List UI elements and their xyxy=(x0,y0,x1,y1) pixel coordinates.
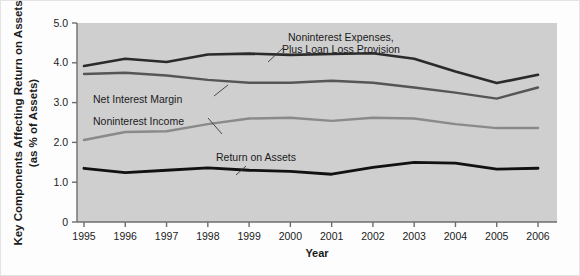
label-noninterest-expenses-line1: Noninterest Expenses, xyxy=(288,31,394,43)
x-tick-labels: 1995199619971998199920002001200220032004… xyxy=(72,230,550,242)
x-tick-label: 2004 xyxy=(444,230,468,242)
y-axis-title-line2: (as % of Assets) xyxy=(27,79,39,168)
y-axis-title: Key Components Affecting Return on Asset… xyxy=(12,0,39,245)
label-noninterest-expenses-line2: Plus Loan Loss Provision xyxy=(282,43,400,55)
x-tick-label: 1999 xyxy=(237,230,261,242)
line-chart: Key Components Affecting Return on Asset… xyxy=(0,0,580,276)
y-tick-label: 3.0 xyxy=(53,96,68,108)
y-tick-labels: 01.02.03.04.05.0 xyxy=(53,17,68,228)
label-net-interest-margin: Net Interest Margin xyxy=(93,93,182,105)
chart-figure: Key Components Affecting Return on Asset… xyxy=(0,0,580,276)
y-tick-label: 0 xyxy=(62,216,68,228)
x-axis-title: Year xyxy=(305,247,329,259)
x-tick-label: 1998 xyxy=(196,230,220,242)
y-tick-label: 1.0 xyxy=(53,176,68,188)
x-tick-label: 2001 xyxy=(320,230,344,242)
label-noninterest-income: Noninterest Income xyxy=(93,115,184,127)
label-return-on-assets: Return on Assets xyxy=(216,151,296,163)
y-tick-label: 2.0 xyxy=(53,136,68,148)
x-tick-label: 1997 xyxy=(155,230,179,242)
y-axis-title-line1: Key Components Affecting Return on Asset… xyxy=(12,0,24,245)
x-tick-label: 2000 xyxy=(279,230,303,242)
y-tick-label: 5.0 xyxy=(53,17,68,29)
x-tick-label: 1995 xyxy=(72,230,96,242)
y-tick-label: 4.0 xyxy=(53,56,68,68)
x-tick-label: 1996 xyxy=(114,230,138,242)
x-tick-label: 2006 xyxy=(526,230,550,242)
x-tick-label: 2002 xyxy=(361,230,385,242)
x-tick-label: 2005 xyxy=(485,230,509,242)
x-tick-label: 2003 xyxy=(403,230,427,242)
